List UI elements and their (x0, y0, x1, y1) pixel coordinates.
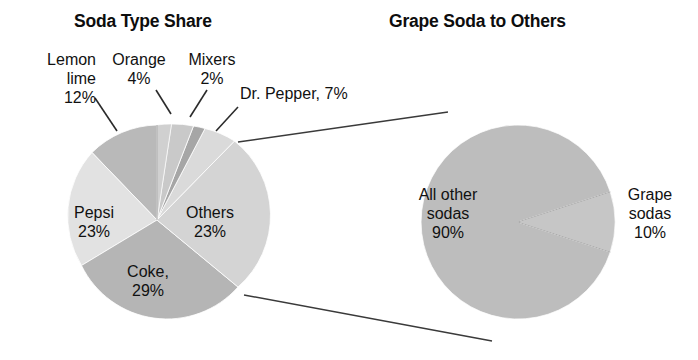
figure-root: Soda Type Share Grape Soda to Others Lem… (0, 0, 698, 360)
label-pepsi-value: 23% (61, 222, 127, 241)
left-chart-title: Soda Type Share (74, 11, 212, 32)
leader-line-dr-pepper (216, 107, 238, 131)
connector-line-top (238, 112, 448, 142)
right-chart-title: Grape Soda to Others (389, 11, 566, 32)
label-others-value: 23% (175, 222, 245, 241)
label-grape-sodas-name2: sodas (616, 204, 684, 223)
label-mixers-value: 2% (181, 69, 243, 88)
label-all-other-sodas: All other sodas 90% (401, 185, 495, 242)
leader-line-lemon-lime (95, 98, 117, 131)
chart-canvas (0, 0, 698, 360)
label-lemon-lime: Lemon lime 12% (0, 50, 96, 107)
label-all-other-sodas-value: 90% (401, 223, 495, 242)
label-others-name: Others (175, 203, 245, 222)
label-others: Others 23% (175, 203, 245, 241)
label-grape-sodas: Grape sodas 10% (616, 185, 684, 242)
connector-line-bottom (244, 295, 492, 341)
label-coke-name: Coke, (114, 262, 182, 281)
leader-line-mixers (190, 90, 207, 117)
label-mixers-name: Mixers (181, 50, 243, 69)
label-dr-pepper: Dr. Pepper, 7% (240, 84, 348, 103)
label-orange-value: 4% (106, 69, 172, 88)
label-orange-name: Orange (106, 50, 172, 69)
label-grape-sodas-value: 10% (616, 223, 684, 242)
label-all-other-sodas-name: All other (401, 185, 495, 204)
label-lemon-lime-name: Lemon (0, 50, 96, 69)
label-all-other-sodas-name2: sodas (401, 204, 495, 223)
label-coke: Coke, 29% (114, 262, 182, 300)
label-coke-value: 29% (114, 281, 182, 300)
label-mixers: Mixers 2% (181, 50, 243, 88)
label-orange: Orange 4% (106, 50, 172, 88)
label-lemon-lime-value: 12% (0, 88, 96, 107)
label-pepsi: Pepsi 23% (61, 203, 127, 241)
label-pepsi-name: Pepsi (61, 203, 127, 222)
label-grape-sodas-name: Grape (616, 185, 684, 204)
label-lemon-lime-name2: lime (0, 69, 96, 88)
label-dr-pepper-text: Dr. Pepper, 7% (240, 84, 348, 103)
leader-line-orange (156, 90, 171, 114)
